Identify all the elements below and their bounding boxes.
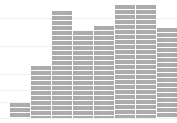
bar-7[interactable] xyxy=(136,5,156,118)
bar-shading xyxy=(52,11,72,118)
bar-shading xyxy=(157,28,177,118)
bar-2[interactable] xyxy=(31,66,51,118)
bar-8[interactable] xyxy=(157,28,177,118)
bar-shading xyxy=(94,26,114,118)
bar-1[interactable] xyxy=(10,103,30,118)
bar-shading xyxy=(115,5,135,118)
bar-shading xyxy=(31,66,51,118)
bar-3[interactable] xyxy=(52,11,72,118)
bar-chart xyxy=(0,0,177,123)
bars-group xyxy=(0,0,177,123)
bar-shading xyxy=(73,31,93,118)
bar-shading xyxy=(10,103,30,118)
bar-6[interactable] xyxy=(115,5,135,118)
plot-area xyxy=(0,0,177,123)
bar-shading xyxy=(136,5,156,118)
bar-4[interactable] xyxy=(73,31,93,118)
bar-5[interactable] xyxy=(94,26,114,118)
